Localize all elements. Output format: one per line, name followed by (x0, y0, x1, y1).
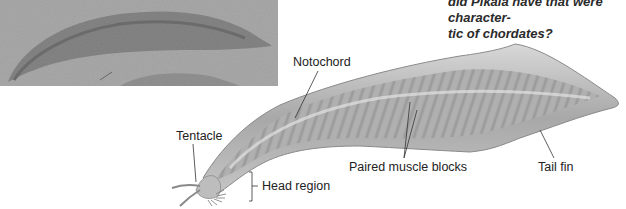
head (196, 176, 221, 199)
tentacle-upper (172, 185, 200, 188)
label-notochord: Notochord (293, 55, 351, 69)
pikaia-illustration (0, 0, 626, 209)
tentacle-lower (180, 190, 200, 206)
label-paired-muscle-blocks: Paired muscle blocks (349, 160, 467, 174)
label-tail-fin: Tail fin (538, 160, 573, 174)
label-tentacle: Tentacle (176, 129, 223, 143)
label-head-region: Head region (262, 179, 330, 193)
